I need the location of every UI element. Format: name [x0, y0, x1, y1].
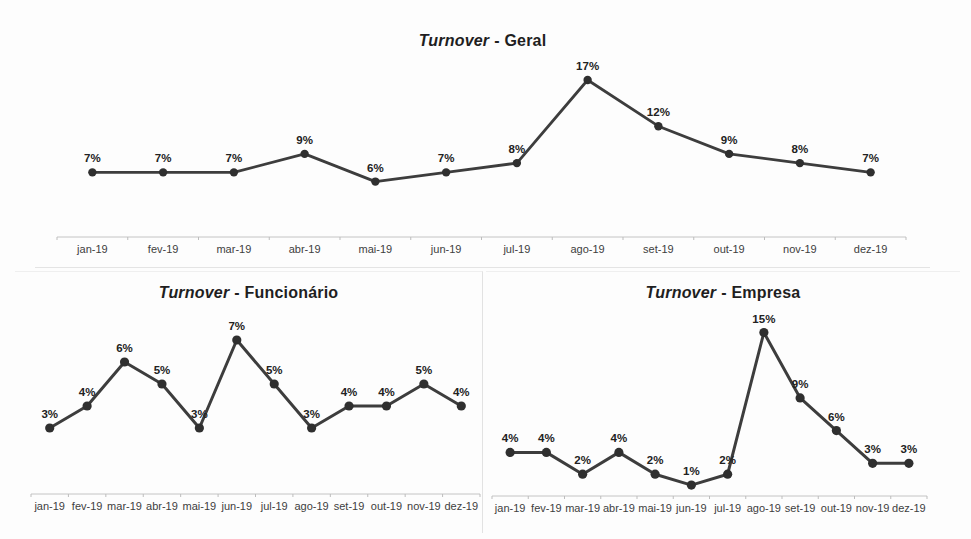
x-axis-label: jun-19 [430, 243, 462, 255]
data-label: 4% [378, 386, 395, 398]
series-line [50, 340, 462, 428]
data-point-marker [654, 122, 662, 130]
data-point-marker [442, 168, 450, 176]
data-label: 3% [191, 408, 208, 420]
x-axis-label: jul-19 [502, 243, 530, 255]
x-axis-label: mar-19 [107, 500, 142, 512]
empresa-line-chart: 4%4%2%4%2%1%2%15%9%6%3%3%jan-19fev-19mar… [486, 272, 960, 534]
data-point-marker [832, 426, 841, 435]
data-label: 9% [296, 134, 313, 146]
chart-title-empresa: Turnover - Empresa [486, 284, 960, 302]
x-axis-label: ago-19 [570, 243, 604, 255]
chart-title-empresa-em: Turnover [646, 284, 717, 302]
data-point-marker [583, 76, 591, 84]
chart-title-funcionario-em: Turnover [159, 284, 230, 302]
data-point-marker [195, 423, 204, 432]
data-label: 5% [266, 364, 283, 376]
data-point-marker [45, 423, 54, 432]
x-axis-label: dez-19 [444, 500, 478, 512]
data-label: 4% [611, 432, 628, 444]
data-label: 8% [509, 143, 526, 155]
data-point-marker [232, 335, 241, 344]
chart-title-funcionario-rest: - Funcionário [234, 284, 338, 302]
x-axis-label: mar-19 [565, 502, 600, 514]
x-axis-label: jan-19 [494, 502, 526, 514]
data-point-marker [159, 168, 167, 176]
x-axis-label: mai-19 [638, 502, 672, 514]
data-point-marker [157, 379, 166, 388]
data-point-marker [904, 459, 913, 468]
chart-turnover-empresa: 4%4%2%4%2%1%2%15%9%6%3%3%jan-19fev-19mar… [486, 271, 960, 533]
data-point-marker [868, 459, 877, 468]
data-point-marker [796, 159, 804, 167]
x-axis-label: set-19 [643, 243, 674, 255]
turnover-dashboard: 7%7%7%9%6%7%8%17%12%9%8%7%jan-19fev-19ma… [0, 0, 971, 539]
data-point-marker [687, 481, 696, 490]
data-point-marker [578, 470, 587, 479]
data-point-marker [270, 379, 279, 388]
data-label: 9% [721, 134, 738, 146]
data-label: 5% [416, 364, 433, 376]
series-line [510, 333, 909, 486]
x-axis-label: fev-19 [148, 243, 179, 255]
data-label: 6% [367, 162, 384, 174]
data-label: 9% [792, 378, 809, 390]
x-axis-label: fev-19 [531, 502, 562, 514]
x-axis-label: dez-19 [854, 243, 888, 255]
data-label: 3% [303, 408, 320, 420]
data-point-marker [866, 168, 874, 176]
data-point-marker [796, 393, 805, 402]
data-label: 2% [719, 454, 736, 466]
data-point-marker [513, 159, 521, 167]
data-label: 7% [862, 152, 879, 164]
data-point-marker [300, 150, 308, 158]
x-axis-label: nov-19 [407, 500, 441, 512]
data-point-marker [83, 401, 92, 410]
x-axis-label: out-19 [714, 243, 745, 255]
chart-turnover-funcionario: 3%4%6%5%3%7%5%3%4%4%5%4%jan-19fev-19mar-… [15, 271, 483, 533]
data-label: 7% [438, 152, 455, 164]
data-label: 4% [453, 386, 470, 398]
x-axis-label: jul-19 [260, 500, 288, 512]
x-axis-label: set-19 [785, 502, 816, 514]
x-axis-label: fev-19 [72, 500, 103, 512]
data-point-marker [542, 448, 551, 457]
x-axis-label: nov-19 [783, 243, 817, 255]
data-label: 4% [79, 386, 96, 398]
data-point-marker [230, 168, 238, 176]
data-point-marker [457, 401, 466, 410]
data-label: 17% [576, 60, 599, 72]
x-axis-label: ago-19 [747, 502, 781, 514]
x-axis-label: mar-19 [216, 243, 251, 255]
chart-title-empresa-rest: - Empresa [721, 284, 800, 302]
data-label: 3% [901, 443, 918, 455]
data-point-marker [88, 168, 96, 176]
data-point-marker [382, 401, 391, 410]
data-label: 7% [84, 152, 101, 164]
x-axis-label: out-19 [371, 500, 402, 512]
data-point-marker [725, 150, 733, 158]
data-label: 4% [341, 386, 358, 398]
data-label: 12% [647, 106, 670, 118]
data-point-marker [371, 177, 379, 185]
chart-title-geral-rest: - Geral [494, 32, 546, 50]
data-point-marker [419, 379, 428, 388]
funcionario-line-chart: 3%4%6%5%3%7%5%3%4%4%5%4%jan-19fev-19mar-… [15, 272, 483, 534]
x-axis-label: set-19 [334, 500, 365, 512]
data-label: 8% [792, 143, 809, 155]
data-label: 3% [41, 408, 58, 420]
data-label: 15% [752, 313, 775, 325]
x-axis-label: mai-19 [359, 243, 393, 255]
data-label: 7% [226, 152, 243, 164]
x-axis-label: jan-19 [33, 500, 65, 512]
data-point-marker [120, 357, 129, 366]
data-label: 6% [116, 342, 133, 354]
data-label: 7% [228, 320, 245, 332]
x-axis-label: jan-19 [76, 243, 108, 255]
data-point-marker [307, 423, 316, 432]
data-label: 4% [502, 432, 519, 444]
x-axis-label: ago-19 [294, 500, 328, 512]
data-label: 6% [828, 411, 845, 423]
x-axis-label: out-19 [821, 502, 852, 514]
data-point-marker [651, 470, 660, 479]
